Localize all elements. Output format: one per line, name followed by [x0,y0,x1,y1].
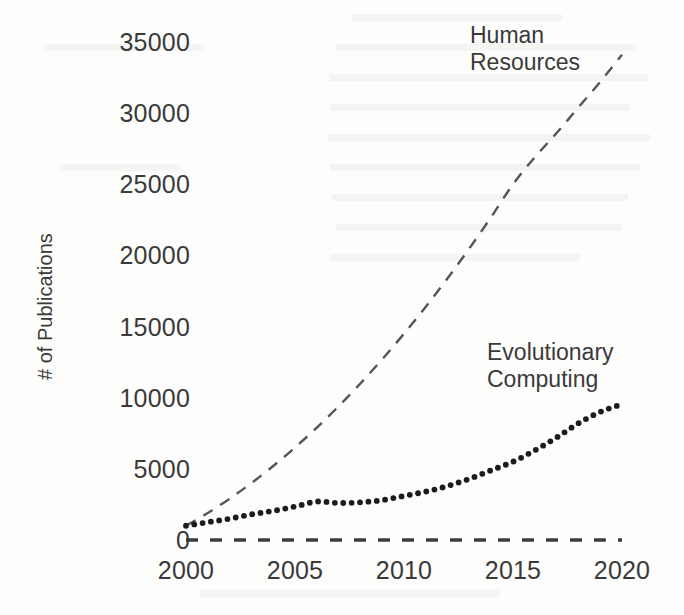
series-dots-evolutionary-computing [183,403,620,529]
series-line-human-resources [186,55,622,526]
plot-area [0,0,684,615]
publications-line-chart: 35000 30000 25000 20000 15000 10000 5000… [0,0,684,615]
